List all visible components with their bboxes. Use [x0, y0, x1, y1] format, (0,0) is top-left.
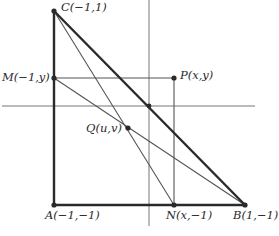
label-P: P(x,y) — [180, 70, 213, 82]
point-P — [171, 75, 176, 80]
label-M: M(−1,y) — [2, 72, 50, 84]
label-B: B(1,−1) — [233, 210, 278, 222]
point-M — [51, 75, 56, 80]
label-N: N(x,−1) — [166, 210, 212, 222]
triangle-figure: C(−1,1) M(−1,y) P(x,y) Q(u,v) A(−1,−1) N… — [0, 0, 279, 236]
segment-CN — [54, 11, 174, 205]
label-A: A(−1,−1) — [45, 210, 100, 222]
point-C — [51, 8, 56, 13]
point-A — [51, 202, 56, 207]
label-C: C(−1,1) — [61, 2, 107, 14]
point-N — [171, 202, 176, 207]
label-Q: Q(u,v) — [86, 123, 122, 135]
point-origin-crossing — [147, 104, 152, 109]
point-Q — [125, 125, 130, 130]
point-B — [242, 202, 247, 207]
figure-canvas — [0, 0, 279, 236]
